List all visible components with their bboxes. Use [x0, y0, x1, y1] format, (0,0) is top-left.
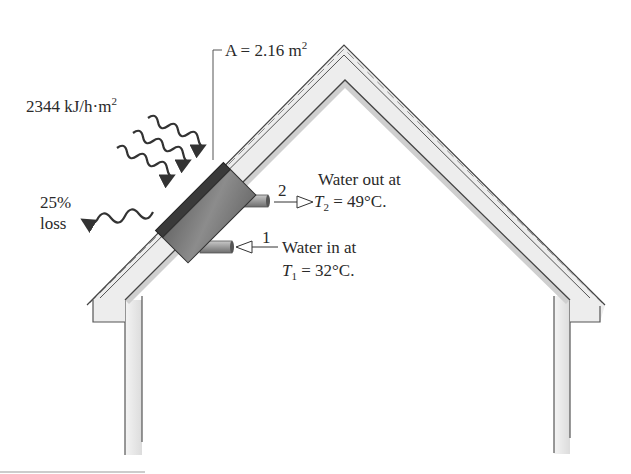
- irradiance-label: 2344 kJ/h·m2: [26, 95, 117, 116]
- right-wall: [554, 296, 570, 454]
- outlet-state: 2 Water out at T2 = 49°C.: [274, 170, 401, 213]
- heat-loss: 25% loss: [40, 193, 153, 233]
- water-in-label: Water in at: [282, 238, 356, 257]
- area-label: A = 2.16 m2: [225, 39, 307, 60]
- state-1-label: 1: [262, 228, 271, 247]
- loss-wave-arrow-icon: [83, 209, 153, 223]
- solar-radiation: 2344 kJ/h·m2: [26, 95, 204, 176]
- diagram-canvas: A = 2.16 m2 2344 kJ/h·m2 25% loss 2 Wate…: [0, 0, 631, 474]
- inlet-arrow-icon: [236, 241, 252, 253]
- outlet-arrow-icon: [297, 196, 313, 208]
- radiation-wave-icon: [148, 116, 204, 147]
- water-out-temp: T2 = 49°C.: [314, 192, 386, 213]
- loss-percent-label: 25%: [40, 193, 71, 212]
- water-out-label: Water out at: [318, 170, 401, 189]
- water-in-temp: T1 = 32°C.: [282, 261, 354, 282]
- state-2-label: 2: [278, 181, 287, 200]
- inlet-state: 1 Water in at T1 = 32°C.: [236, 228, 356, 282]
- loss-word-label: loss: [40, 214, 66, 233]
- left-wall: [125, 296, 142, 455]
